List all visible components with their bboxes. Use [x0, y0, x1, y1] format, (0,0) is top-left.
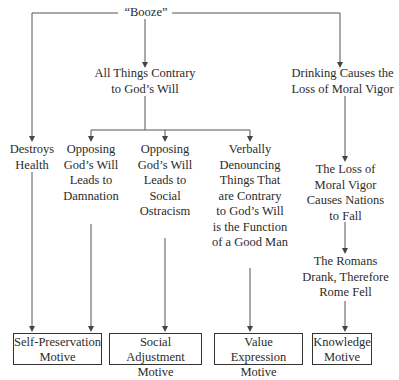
node-line: Damnation — [56, 189, 126, 205]
box-line: Value Expression — [215, 335, 302, 365]
node-line: Denouncing — [205, 158, 295, 174]
node-line: Loss of Moral Vigor — [280, 82, 399, 98]
box-line: Motive — [14, 350, 101, 365]
box-line: Motive — [215, 365, 302, 380]
node-drinking-causes-loss: Drinking Causes the Loss of Moral Vigor — [280, 66, 399, 97]
node-line: Causes Nations — [298, 193, 393, 209]
node-line: Opposing — [56, 142, 126, 158]
box-line: Social Adjustment — [110, 335, 201, 365]
box-self-preservation-motive: Self-Preservation Motive — [13, 333, 102, 365]
box-line: Self-Preservation — [14, 335, 101, 350]
node-romans-drank: The Romans Drank, Therefore Rome Fell — [293, 254, 398, 301]
node-line: Drinking Causes the — [280, 66, 399, 82]
root-node-booze: “Booze” — [118, 5, 174, 21]
box-knowledge-motive: Knowledge Motive — [312, 333, 372, 365]
node-line: Leads to — [56, 173, 126, 189]
node-line: Destroys — [2, 142, 62, 158]
node-all-things-contrary: All Things Contrary to God’s Will — [85, 66, 205, 97]
node-destroys-health: Destroys Health — [2, 142, 62, 173]
node-line: Verbally — [205, 142, 295, 158]
node-line: Things That — [205, 173, 295, 189]
node-line: Drank, Therefore — [293, 270, 398, 286]
node-line: to Fall — [298, 209, 393, 225]
node-verbally-denouncing: Verbally Denouncing Things That are Cont… — [205, 142, 295, 251]
node-line: God’s Will — [130, 158, 200, 174]
node-line: to God’s Will — [205, 204, 295, 220]
node-line: of a Good Man — [205, 235, 295, 251]
node-line: Ostracism — [130, 204, 200, 220]
box-social-adjustment-motive: Social Adjustment Motive — [109, 333, 202, 365]
node-line: to God’s Will — [85, 82, 205, 98]
node-line: Rome Fell — [293, 285, 398, 301]
node-line: God’s Will — [56, 158, 126, 174]
node-line: Social — [130, 189, 200, 205]
node-line: The Romans — [293, 254, 398, 270]
node-social-ostracism: Opposing God’s Will Leads to Social Ostr… — [130, 142, 200, 220]
node-damnation: Opposing God’s Will Leads to Damnation — [56, 142, 126, 204]
node-line: Leads to — [130, 173, 200, 189]
node-line: is the Function — [205, 220, 295, 236]
node-line: Health — [2, 158, 62, 174]
node-line: Opposing — [130, 142, 200, 158]
box-line: Knowledge — [313, 335, 371, 350]
box-line: Motive — [110, 365, 201, 380]
node-line: The Loss of — [298, 162, 393, 178]
node-line: are Contrary — [205, 189, 295, 205]
node-line: Moral Vigor — [298, 178, 393, 194]
node-line: All Things Contrary — [85, 66, 205, 82]
node-loss-causes-fall: The Loss of Moral Vigor Causes Nations t… — [298, 162, 393, 224]
box-value-expression-motive: Value Expression Motive — [214, 333, 303, 365]
box-line: Motive — [313, 350, 371, 365]
